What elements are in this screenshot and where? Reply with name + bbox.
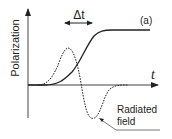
x-axis-label: t	[151, 67, 156, 82]
radiated-field-curve	[38, 48, 128, 118]
polarization-curve	[28, 30, 150, 85]
delta-t-label: Δt	[73, 8, 85, 22]
annotation-line2: field	[117, 116, 135, 127]
polarization-diagram: Polarization t Δt (a) Radiated field	[0, 0, 172, 139]
y-axis-label: Polarization	[9, 19, 21, 76]
panel-label: (a)	[140, 15, 152, 26]
annotation-line1: Radiated	[117, 104, 157, 115]
